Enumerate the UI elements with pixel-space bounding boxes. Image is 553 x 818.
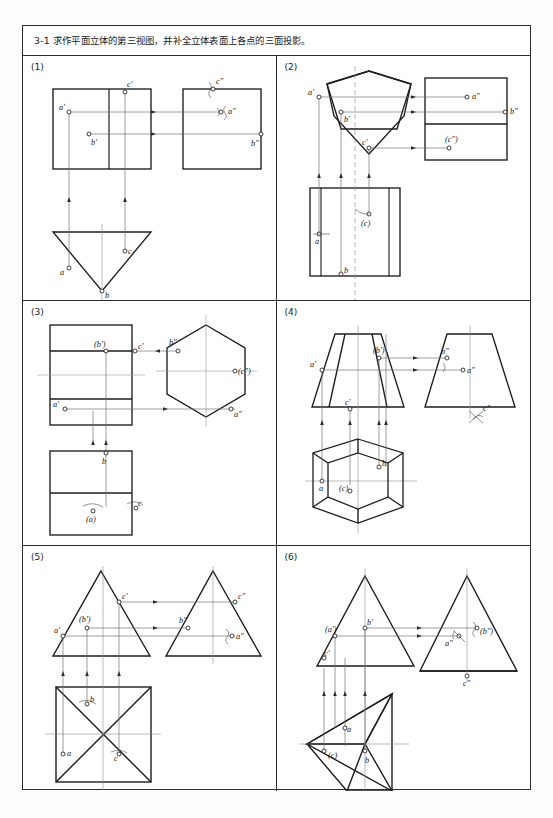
panel-grid: (1) [23, 56, 530, 791]
panel-3-label-cp: c' [138, 342, 144, 351]
exercise-instruction: 3-1 求作平面立体的第三视图，并补全立体表面上各点的三面投影。 [34, 33, 311, 47]
panel-2-label-a: a [315, 237, 319, 246]
panel-2-label-b: b [344, 266, 348, 275]
panel-3-label-bpp: b″ [169, 338, 177, 347]
panel-2-label-cpp: (c″) [445, 135, 458, 144]
panel-3-figure: (b') c' a' b″ (c″) a″ b (a) c [23, 301, 277, 546]
panel-6-label-a: a [347, 725, 351, 734]
panel-5-label-a-side: a″ [236, 632, 244, 641]
panel-1-label-app: a″ [228, 107, 236, 116]
panel-1-label-c: c [128, 247, 132, 256]
panel-6-label-c: (c) [328, 751, 337, 760]
panel-1-label-bpp: b″ [251, 139, 259, 148]
panel-4-figure: a' (b') c' b″ a″ c″ a (c) b [277, 301, 531, 546]
panel-5: (5) [23, 546, 277, 791]
panel-6-figure: (a') b' c' a″ (b″) c″ a (c) b [277, 546, 531, 791]
panel-3-label-bp: (b') [94, 340, 106, 349]
panel-2-label-c: (c) [361, 219, 370, 228]
panel-6-label-cpp: c″ [463, 679, 471, 688]
panel-3-label-app: a″ [234, 410, 242, 419]
panel-4-label-bp: (b') [373, 346, 385, 355]
panel-3-label-c: c [138, 499, 142, 508]
panel-4-label-cp: c' [345, 398, 351, 407]
panel-4-label-cpp: c″ [483, 404, 491, 413]
panel-1-label-a: a [60, 268, 64, 277]
panel-5-label-b: b [90, 695, 94, 704]
panel-6-label-cp: c' [324, 649, 330, 658]
panel-6-label-bp: b' [367, 618, 373, 627]
panel-2: (2) [277, 56, 531, 301]
panel-4-label-ap: a' [310, 360, 316, 369]
panel-6-label-bpp: (b″) [480, 627, 493, 636]
panel-2-label-cp: c' [362, 138, 368, 147]
panel-1-label-cpp: c″ [216, 77, 224, 86]
panel-3-label-ap: a' [53, 400, 59, 409]
panel-4-label-c: (c) [339, 484, 348, 493]
panel-6-label-app: a″ [445, 639, 453, 648]
panel-2-label-app: a″ [472, 92, 480, 101]
panel-5-figure: c' (b') a' c″ b″ a″ b a c [23, 546, 277, 791]
panel-3-label-b: b [102, 457, 106, 466]
panel-5-label-c: c [114, 754, 118, 763]
page: 3-1 求作平面立体的第三视图，并补全立体表面上各点的三面投影。 (1) [0, 0, 553, 818]
panel-5-label-app: a' [54, 626, 60, 635]
panel-3: (3) [23, 301, 277, 546]
panel-1-figure: a' b' c' a″ b″ c″ a b c [23, 56, 277, 301]
panel-4-label-app: a″ [467, 366, 475, 375]
panel-2-figure: a' b' c' a″ b″ (c″) a b (c) [277, 56, 531, 301]
panel-4-label-b: b [382, 459, 386, 468]
panel-1-label-b: b [105, 291, 109, 300]
panel-2-label-bp: b' [344, 115, 350, 124]
panel-4: (4) [277, 301, 531, 546]
worksheet-frame: 3-1 求作平面立体的第三视图，并补全立体表面上各点的三面投影。 (1) [22, 25, 531, 790]
panel-5-label-a: a [67, 749, 71, 758]
panel-6-label-b: b [365, 756, 369, 765]
panel-4-label-bpp: b″ [441, 347, 449, 356]
panel-4-label-a: a [319, 484, 323, 493]
panel-5-label-cpp: c″ [238, 592, 246, 601]
panel-5-label-cp: c' [122, 592, 128, 601]
panel-3-label-cpp: (c″) [238, 367, 251, 376]
panel-6: (6) [277, 546, 531, 791]
panel-1-label-bp: b' [91, 138, 97, 147]
header-row: 3-1 求作平面立体的第三视图，并补全立体表面上各点的三面投影。 [23, 26, 530, 56]
panel-3-label-a: (a) [86, 515, 96, 524]
panel-1-label-cp: c' [127, 80, 133, 89]
panel-5-label-bp: (b') [79, 615, 91, 624]
panel-6-label-ap: (a') [325, 625, 337, 634]
panel-1: (1) [23, 56, 277, 301]
panel-5-label-bpp: b″ [179, 616, 187, 625]
panel-1-label-ap: a' [59, 103, 65, 112]
panel-2-label-bpp: b″ [510, 107, 518, 116]
panel-2-label-ap: a' [308, 88, 314, 97]
